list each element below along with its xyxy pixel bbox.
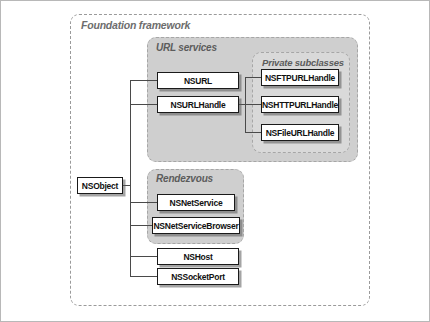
connector-subclass-to-nshttpurlhandle	[245, 104, 261, 105]
node-nsobject[interactable]: NSObject	[77, 177, 123, 194]
group-foundation-framework-label: Foundation framework	[81, 19, 190, 31]
node-nssocketport[interactable]: NSSocketPort	[157, 268, 239, 285]
connector-trunk-to-nsnetservicebrowser	[130, 225, 152, 226]
node-nsnetservicebrowser[interactable]: NSNetServiceBrowser	[152, 217, 240, 234]
node-nsftpurlhandle[interactable]: NSFTPURLHandle	[261, 69, 339, 86]
group-private-subclasses-label: Private subclasses	[262, 57, 344, 68]
node-nsurlhandle[interactable]: NSURLHandle	[157, 96, 239, 113]
node-nshttpurlhandle[interactable]: NSHTTPURLHandle	[261, 96, 339, 113]
connector-trunk-to-nsurl	[130, 80, 157, 81]
connector-main-trunk	[130, 80, 131, 276]
connector-trunk-to-nshost	[130, 256, 157, 257]
node-nsfileurlhandle[interactable]: NSFileURLHandle	[261, 124, 339, 141]
connector-trunk-to-nssocketport	[130, 276, 157, 277]
connector-trunk-to-nsnetservice	[130, 202, 157, 203]
node-nshost[interactable]: NSHost	[157, 248, 239, 265]
connector-subclass-trunk	[245, 77, 246, 133]
group-rendezvous-label: Rendezvous	[156, 173, 213, 184]
diagram-canvas: Foundation framework URL services Privat…	[0, 0, 430, 322]
connector-subclass-to-nsfileurlhandle	[245, 132, 261, 133]
connector-trunk-to-nsurlhandle	[130, 104, 157, 105]
connector-subclass-to-nsftpurlhandle	[245, 77, 261, 78]
node-nsnetservice[interactable]: NSNetService	[157, 194, 235, 211]
node-nsurl[interactable]: NSURL	[157, 72, 239, 89]
group-url-services-label: URL services	[156, 42, 217, 53]
connector-nsobject-stub	[123, 185, 130, 186]
